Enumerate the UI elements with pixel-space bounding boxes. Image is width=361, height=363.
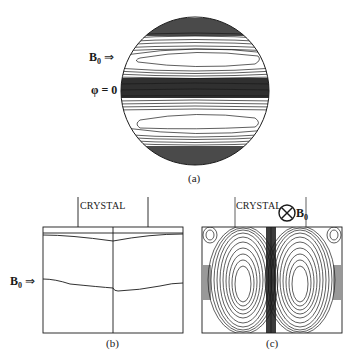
panel-c-contour-plot: [202, 197, 342, 334]
field-symbol: B: [296, 206, 304, 220]
field-subscript: 0: [18, 281, 22, 290]
field-subscript: 0: [97, 57, 101, 66]
figure-canvas: [0, 0, 361, 363]
panel-b-crystal-label: CRYSTAL: [80, 200, 126, 211]
panel-c-caption: (c): [266, 337, 278, 349]
panel-c-field-label: B0: [296, 206, 308, 222]
panel-a-phi-label: φ = 0: [91, 83, 117, 98]
panel-a-field-label: B0 ⇒: [89, 50, 114, 66]
panel-b-diagram: [43, 197, 183, 333]
field-symbol: B: [89, 50, 97, 64]
panel-b-caption: (b): [106, 337, 119, 349]
right-double-arrow-icon: ⇒: [104, 50, 114, 64]
panel-a-caption: (a): [188, 172, 200, 184]
field-subscript: 0: [304, 213, 308, 222]
field-symbol: B: [10, 274, 18, 288]
right-double-arrow-icon: ⇒: [25, 274, 35, 288]
panel-a-contour-plot: [115, 18, 275, 166]
panel-b-field-label: B0 ⇒: [10, 274, 35, 290]
panel-c-crystal-label: CRYSTAL: [236, 200, 282, 211]
